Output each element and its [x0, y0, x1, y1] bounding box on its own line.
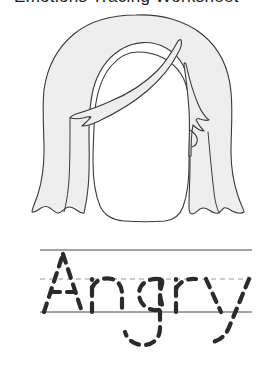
- illustration-container: [0, 8, 272, 230]
- trace-letter-A[interactable]: [44, 254, 63, 312]
- trace-letter-n-arch[interactable]: [92, 278, 122, 312]
- face-shape: [93, 52, 190, 222]
- trace-letter-y-left[interactable]: [206, 279, 221, 312]
- face-with-hair-illustration: [0, 8, 272, 230]
- trace-letter-A-right[interactable]: [63, 254, 82, 312]
- tracing-panel: Angry: [0, 232, 272, 371]
- traced-letters-group[interactable]: [44, 254, 249, 345]
- worksheet-page: Emotions Tracing Worksheet Angry: [0, 0, 272, 371]
- tracing-word-svg: [0, 232, 272, 371]
- page-title: Emotions Tracing Worksheet: [14, 0, 239, 7]
- trace-letter-r-shoulder[interactable]: [176, 279, 196, 289]
- trace-letter-y-right[interactable]: [210, 279, 249, 342]
